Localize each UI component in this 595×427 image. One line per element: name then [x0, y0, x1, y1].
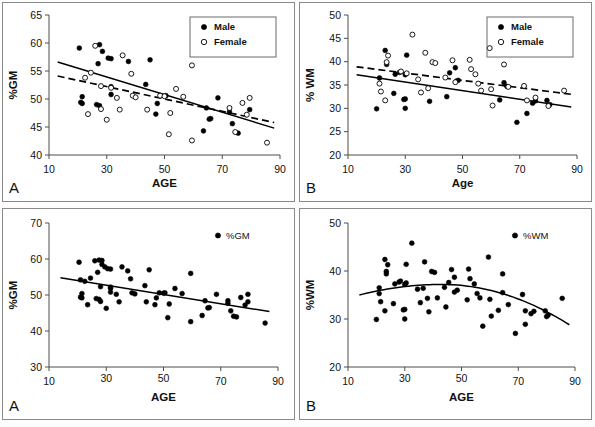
chart-panel-b-top: 202530354045501030507090Age% WMBMaleFema… [299, 2, 592, 202]
data-point [162, 94, 167, 99]
y-tick-label: 50 [30, 289, 42, 301]
data-point [443, 75, 448, 80]
data-point [181, 94, 186, 99]
data-point [120, 53, 125, 58]
data-point [524, 98, 529, 103]
data-point [435, 295, 440, 300]
x-tick-label: 30 [399, 372, 411, 384]
data-point [133, 95, 138, 100]
data-point [514, 120, 519, 125]
data-point [455, 288, 460, 293]
data-point [378, 299, 383, 304]
data-point [189, 138, 194, 143]
x-tick-label: 50 [159, 163, 171, 175]
data-point [80, 295, 85, 300]
y-tick-label: 30 [329, 313, 341, 325]
data-point [496, 308, 501, 313]
data-point [214, 292, 219, 297]
data-point [452, 275, 457, 280]
data-point [560, 296, 565, 301]
panel-a-top-svg: 4045505560651030507090AGE%GMAMaleFemale [3, 3, 294, 201]
data-point [500, 290, 505, 295]
x-tick-label: 30 [399, 163, 411, 175]
data-point [473, 72, 478, 77]
y-tick-label: 60 [30, 253, 42, 265]
y-tick-label: 40 [329, 265, 341, 277]
data-point [374, 106, 379, 111]
data-point [466, 267, 471, 272]
figure-container: 4045505560651030507090AGE%GMAMaleFemale … [0, 0, 595, 427]
data-point [201, 129, 206, 134]
y-axis-title: %GM [7, 71, 19, 100]
data-point [475, 291, 480, 296]
data-point [109, 56, 114, 61]
data-point [506, 84, 511, 89]
data-point [234, 315, 239, 320]
data-point [402, 317, 407, 322]
data-point [490, 103, 495, 108]
data-point [546, 313, 551, 318]
data-point [486, 255, 491, 260]
data-point [497, 98, 502, 103]
x-tick-label: 30 [101, 163, 113, 175]
y-axis-title: %WM [304, 280, 316, 311]
data-point [143, 82, 148, 87]
data-point [98, 299, 103, 304]
data-point [385, 262, 390, 267]
data-point [418, 90, 423, 95]
panel-letter: A [9, 179, 19, 196]
data-point [188, 271, 193, 276]
data-point [523, 322, 528, 327]
data-point [467, 57, 472, 62]
data-point [85, 302, 90, 307]
data-point [96, 61, 101, 66]
data-point [398, 69, 403, 74]
y-tick-label: 45 [329, 32, 341, 44]
data-point [227, 105, 232, 110]
legend-marker [512, 233, 517, 238]
data-point [415, 287, 420, 292]
y-tick-label: 50 [329, 9, 341, 21]
data-point [77, 46, 82, 51]
legend-label-male: Male [214, 21, 235, 32]
legend-marker-female [201, 39, 206, 44]
y-tick-label: 20 [329, 149, 341, 161]
data-point [167, 302, 172, 307]
y-tick-label: 40 [30, 325, 42, 337]
data-point [145, 107, 150, 112]
data-point [522, 83, 527, 88]
x-tick-label: 10 [43, 163, 55, 175]
data-point [265, 140, 270, 145]
data-point [432, 270, 437, 275]
data-point [391, 91, 396, 96]
panel-b-top-svg: 202530354045501030507090Age% WMBMaleFema… [300, 3, 591, 201]
data-point [247, 95, 252, 100]
legend-marker [215, 233, 220, 238]
data-point [421, 286, 426, 291]
data-point [98, 107, 103, 112]
data-point [95, 270, 100, 275]
data-point [243, 303, 248, 308]
data-point [425, 296, 430, 301]
y-tick-label: 40 [30, 149, 42, 161]
x-tick-label: 70 [512, 375, 524, 387]
data-point [200, 313, 205, 318]
data-point [404, 262, 409, 267]
data-point [189, 63, 194, 68]
data-point [203, 298, 208, 303]
chart-panel-a-top: 4045505560651030507090AGE%GMAMaleFemale [2, 2, 295, 202]
data-point [104, 117, 109, 122]
y-tick-label: 25 [329, 125, 341, 137]
data-point [155, 101, 160, 106]
y-tick-label: 65 [30, 9, 42, 21]
data-point [410, 32, 415, 37]
data-point [402, 282, 407, 287]
legend-marker-male [201, 24, 206, 29]
data-point [244, 112, 249, 117]
data-point [468, 276, 473, 281]
y-axis-title: %GM [7, 281, 19, 310]
data-point [154, 295, 159, 300]
data-point [479, 88, 484, 93]
data-point [487, 297, 492, 302]
data-point [533, 95, 538, 100]
